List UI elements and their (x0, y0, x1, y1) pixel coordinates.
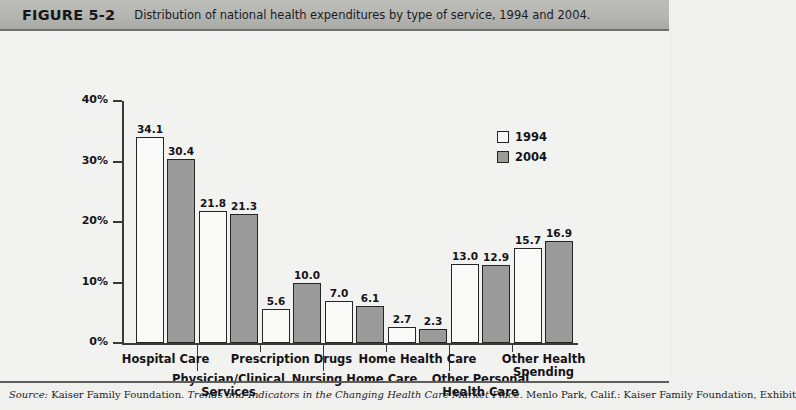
x-axis-line (122, 343, 578, 345)
legend-swatch-icon (497, 131, 509, 143)
bar-value-label: 16.9 (539, 227, 579, 239)
bar (545, 241, 573, 343)
source-prefix: Source: (9, 389, 48, 400)
y-axis-tick (113, 282, 122, 284)
bar (419, 329, 447, 343)
category-label: Home Health Care (353, 353, 483, 366)
y-axis-tick (113, 342, 122, 344)
bar (356, 306, 384, 343)
y-axis-tick-label: 40% (66, 93, 108, 106)
legend-item[interactable]: 2004 (497, 150, 547, 164)
bar (262, 309, 290, 343)
source-divider (0, 381, 669, 383)
chart-legend: 19942004 (497, 130, 547, 170)
figure-caption: Distribution of national health expendit… (134, 8, 590, 22)
legend-label: 1994 (515, 130, 547, 144)
group-separator (512, 343, 513, 352)
bar (167, 159, 195, 343)
legend-swatch-icon (497, 151, 509, 163)
bar-value-label: 2.3 (413, 315, 453, 327)
source-publisher: Kaiser Family Foundation. (51, 389, 184, 400)
bar (482, 265, 510, 343)
y-axis-line (122, 101, 124, 345)
category-label: Hospital Care (101, 353, 231, 366)
bar-value-label: 6.1 (350, 292, 390, 304)
category-label: Other Health Spending (479, 353, 609, 379)
bar-value-label: 34.1 (130, 123, 170, 135)
figure-number: FIGURE 5-2 (22, 7, 115, 23)
bar (199, 211, 227, 343)
bar (325, 301, 353, 343)
bar (293, 283, 321, 344)
y-axis-tick (113, 221, 122, 223)
y-axis-tick-label: 30% (66, 154, 108, 167)
y-axis-tick-label: 0% (66, 335, 108, 348)
bar-value-label: 12.9 (476, 251, 516, 263)
group-separator (260, 343, 261, 352)
y-axis-tick (113, 161, 122, 163)
legend-label: 2004 (515, 150, 547, 164)
legend-item[interactable]: 1994 (497, 130, 547, 144)
group-separator (386, 343, 387, 352)
bar (230, 214, 258, 343)
bar-value-label: 21.3 (224, 200, 264, 212)
bar-value-label: 30.4 (161, 145, 201, 157)
category-label: Nursing Home Care (290, 373, 420, 386)
y-axis-tick (113, 100, 122, 102)
y-axis-tick-label: 20% (66, 214, 108, 227)
source-title: Trends and Indicators in the Changing He… (187, 389, 519, 400)
bar (388, 327, 416, 343)
figure-header: FIGURE 5-2 Distribution of national heal… (0, 0, 669, 31)
bar-value-label: 5.6 (256, 295, 296, 307)
source-note: Source: Kaiser Family Foundation. Trends… (9, 389, 669, 400)
y-axis-tick-label: 10% (66, 275, 108, 288)
bar (136, 137, 164, 343)
category-label: Prescription Drugs (227, 353, 357, 366)
source-rest: . Menlo Park, Calif.: Kaiser Family Foun… (520, 389, 796, 400)
bar-chart: 0%10%20%30%40% 34.130.421.821.35.610.07.… (0, 31, 669, 380)
bar-value-label: 10.0 (287, 269, 327, 281)
bar (451, 264, 479, 343)
bar (514, 248, 542, 343)
